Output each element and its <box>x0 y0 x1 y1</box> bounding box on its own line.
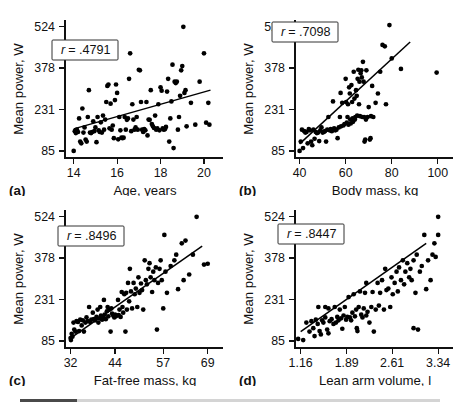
data-point <box>179 68 184 73</box>
data-point <box>354 93 359 98</box>
x-tick-label: 18 <box>154 166 168 180</box>
data-point <box>161 306 166 311</box>
data-point <box>80 106 85 111</box>
y-tick-label: 524 <box>34 20 55 34</box>
figure-scatterplot-grid: 8523137852414161820r= .4791Mean power, W… <box>0 0 460 412</box>
data-point <box>434 70 439 75</box>
data-point <box>127 299 132 304</box>
data-point <box>113 98 118 103</box>
data-point <box>356 305 361 310</box>
data-point <box>380 278 385 283</box>
data-point <box>102 298 107 303</box>
correlation-annotation: r= .8496 <box>58 226 124 246</box>
data-point <box>178 93 183 98</box>
data-point <box>321 320 326 325</box>
data-point <box>197 79 202 84</box>
rule-dark-segment <box>20 399 77 402</box>
data-point <box>84 139 89 144</box>
data-point <box>126 116 131 121</box>
data-point <box>172 258 177 263</box>
data-point <box>174 252 179 257</box>
data-point <box>357 102 362 107</box>
correlation-text: r= .8496 <box>67 229 117 243</box>
data-point <box>310 143 315 148</box>
data-point <box>389 275 394 280</box>
data-point <box>71 149 76 154</box>
data-point <box>367 320 372 325</box>
data-point <box>79 323 84 328</box>
data-point <box>307 329 312 334</box>
x-tick-label: 1.16 <box>289 356 313 370</box>
data-point <box>108 101 113 106</box>
y-tick-label: 85 <box>271 144 285 158</box>
data-point <box>150 290 155 295</box>
data-point <box>382 307 387 312</box>
correlation-annotation: r= .8447 <box>278 224 344 244</box>
correlation-value: = .7098 <box>288 25 330 39</box>
data-point <box>176 287 181 292</box>
data-point <box>101 113 106 118</box>
data-point <box>98 305 103 310</box>
data-point <box>131 281 136 286</box>
data-point <box>338 91 343 96</box>
data-point <box>126 281 131 286</box>
data-point <box>116 298 121 303</box>
panel-letter: (d) <box>239 373 256 386</box>
y-tick-label: 378 <box>264 61 285 75</box>
y-tick-label: 231 <box>264 103 285 117</box>
data-point <box>371 115 376 120</box>
regression-line <box>300 42 411 144</box>
data-point <box>153 113 158 118</box>
data-point <box>353 314 358 319</box>
data-point <box>428 278 433 283</box>
data-point <box>143 278 148 283</box>
y-tick-label: 378 <box>264 251 285 265</box>
y-tick-label: 231 <box>34 293 55 307</box>
data-point <box>168 116 173 121</box>
data-point <box>399 278 404 283</box>
y-axis-title: Mean power, W <box>241 43 256 135</box>
data-point <box>123 127 128 132</box>
data-point <box>130 102 135 107</box>
data-point <box>373 101 378 106</box>
data-point <box>323 305 328 310</box>
data-point <box>324 139 329 144</box>
correlation-text: r= .4791 <box>61 43 111 57</box>
data-point <box>363 291 368 296</box>
x-tick-label: 69 <box>201 356 215 370</box>
data-point <box>109 127 114 132</box>
data-point <box>405 261 410 266</box>
data-point <box>159 278 164 283</box>
data-point <box>174 79 179 84</box>
data-point <box>301 338 306 343</box>
panel-d: 852313785241.161.892.613.34r= .8447Mean … <box>230 190 460 386</box>
data-point <box>357 79 362 84</box>
data-point <box>377 303 382 308</box>
data-point <box>148 275 153 280</box>
x-tick-label: 3.34 <box>426 356 450 370</box>
data-point <box>115 91 120 96</box>
data-point <box>387 23 392 28</box>
data-point <box>331 99 336 104</box>
x-tick-label: 57 <box>156 356 170 370</box>
data-point <box>171 146 176 151</box>
y-tick-label: 231 <box>264 293 285 307</box>
data-point <box>411 258 416 263</box>
data-point <box>184 124 189 129</box>
data-point <box>413 291 418 296</box>
data-point <box>207 122 212 127</box>
data-point <box>416 327 421 332</box>
data-point <box>409 278 414 283</box>
data-point <box>351 69 356 74</box>
data-point <box>315 322 320 327</box>
data-point <box>418 269 423 274</box>
data-point <box>166 76 171 81</box>
data-point <box>85 115 90 120</box>
data-point <box>411 326 416 331</box>
x-axis-title: Fat-free mass, kg <box>94 373 197 386</box>
y-tick-label: 524 <box>34 210 55 224</box>
data-point <box>134 115 139 120</box>
data-point <box>399 67 404 72</box>
data-point <box>369 305 374 310</box>
data-point <box>108 329 113 334</box>
